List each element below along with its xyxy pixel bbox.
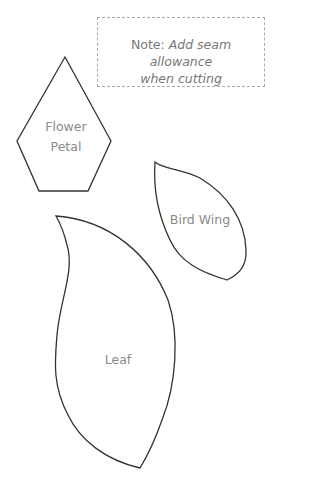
- bird-wing-label-text: Bird Wing: [170, 212, 230, 227]
- seam-allowance-note: Note: Add seam allowance when cutting: [97, 17, 265, 87]
- flower-petal-label-line2: Petal: [51, 139, 82, 154]
- flower-petal-label-line1: Flower: [45, 119, 86, 134]
- bird-wing-label: Bird Wing: [160, 210, 240, 230]
- note-prefix: Note:: [131, 37, 169, 52]
- note-line2: when cutting: [140, 71, 222, 86]
- leaf-shape[interactable]: [55, 216, 175, 468]
- leaf-label-text: Leaf: [105, 352, 132, 367]
- leaf-label: Leaf: [88, 350, 148, 370]
- flower-petal-label: Flower Petal: [38, 117, 94, 157]
